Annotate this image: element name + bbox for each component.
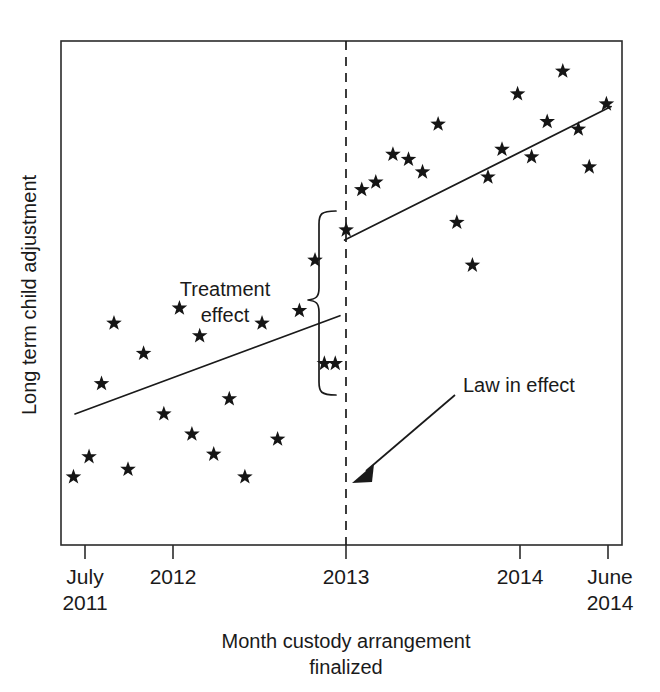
x-tick-label-june: June <box>587 565 633 588</box>
x-tick-label-2012: 2012 <box>150 565 197 588</box>
x-axis-title-line1: Month custody arrangement <box>221 630 470 652</box>
x-tick-label-2013: 2013 <box>323 565 370 588</box>
x-tick-label-july: July <box>66 565 104 588</box>
x-tick-label-2014-end: 2014 <box>587 591 634 614</box>
chart-figure: Treatment effect Law in effect July 2011… <box>0 0 660 692</box>
law-in-effect-label: Law in effect <box>463 374 575 396</box>
x-axis-title-line2: finalized <box>309 656 382 678</box>
interrupted-time-series-chart: Treatment effect Law in effect July 2011… <box>0 0 660 692</box>
x-tick-label-2011: 2011 <box>62 591 107 614</box>
chart-background <box>0 0 660 692</box>
treatment-effect-label-line1: Treatment <box>180 278 271 300</box>
x-tick-label-2014: 2014 <box>497 565 544 588</box>
y-axis-title: Long term child adjustment <box>18 175 40 416</box>
treatment-effect-label-line2: effect <box>201 304 250 326</box>
